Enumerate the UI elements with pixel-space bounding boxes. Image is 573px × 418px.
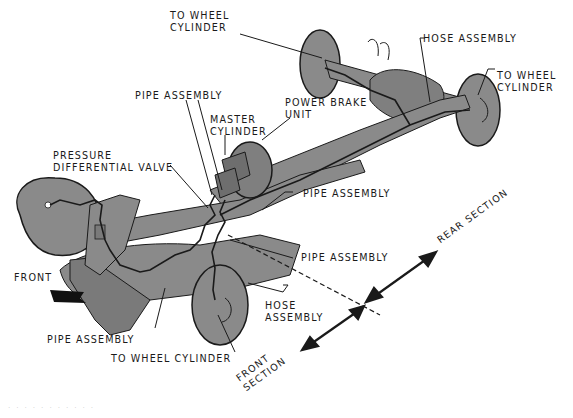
label-line: ASSEMBLY [265, 312, 323, 324]
front-direction-arrow [50, 290, 86, 303]
label-pipe-assembly-right-2: PIPE ASSEMBLY [301, 252, 388, 264]
label-line: CYLINDER [497, 82, 556, 94]
label-line: POWER BRAKE [285, 97, 367, 109]
label-line: TO WHEEL [497, 70, 556, 82]
label-line: MASTER [210, 114, 267, 126]
label-master-cylinder: MASTER CYLINDER [210, 114, 267, 138]
label-hose-assembly-rear: HOSE ASSEMBLY [423, 33, 517, 45]
power-brake-unit [215, 142, 272, 198]
spring-mount [368, 39, 389, 60]
label-pipe-assembly-top: PIPE ASSEMBLY [135, 90, 222, 102]
label-power-brake-unit: POWER BRAKE UNIT [285, 97, 367, 121]
label-line: DIFFERENTIAL VALVE [53, 162, 173, 174]
label-to-wheel-cylinder-front: TO WHEEL CYLINDER [111, 353, 231, 365]
label-line: PRESSURE [53, 150, 173, 162]
label-line: UNIT [285, 109, 367, 121]
label-pipe-assembly-right-1: PIPE ASSEMBLY [303, 188, 390, 200]
label-front: FRONT [14, 272, 52, 284]
front-right-drum [192, 265, 248, 345]
label-pipe-assembly-bottom: PIPE ASSEMBLY [47, 334, 134, 346]
label-line: CYLINDER [170, 22, 229, 34]
label-to-wheel-cylinder-rear-left: TO WHEEL CYLINDER [170, 10, 229, 34]
faint-caption: · · · · · · · · · · · [8, 404, 95, 411]
label-line: TO WHEEL [170, 10, 229, 22]
label-to-wheel-cylinder-rear-right: TO WHEEL CYLINDER [497, 70, 556, 94]
label-hose-assembly-front: HOSE ASSEMBLY [265, 300, 323, 324]
label-line: HOSE [265, 300, 323, 312]
label-line: CYLINDER [210, 126, 267, 138]
label-pressure-differential-valve: PRESSURE DIFFERENTIAL VALVE [53, 150, 173, 174]
